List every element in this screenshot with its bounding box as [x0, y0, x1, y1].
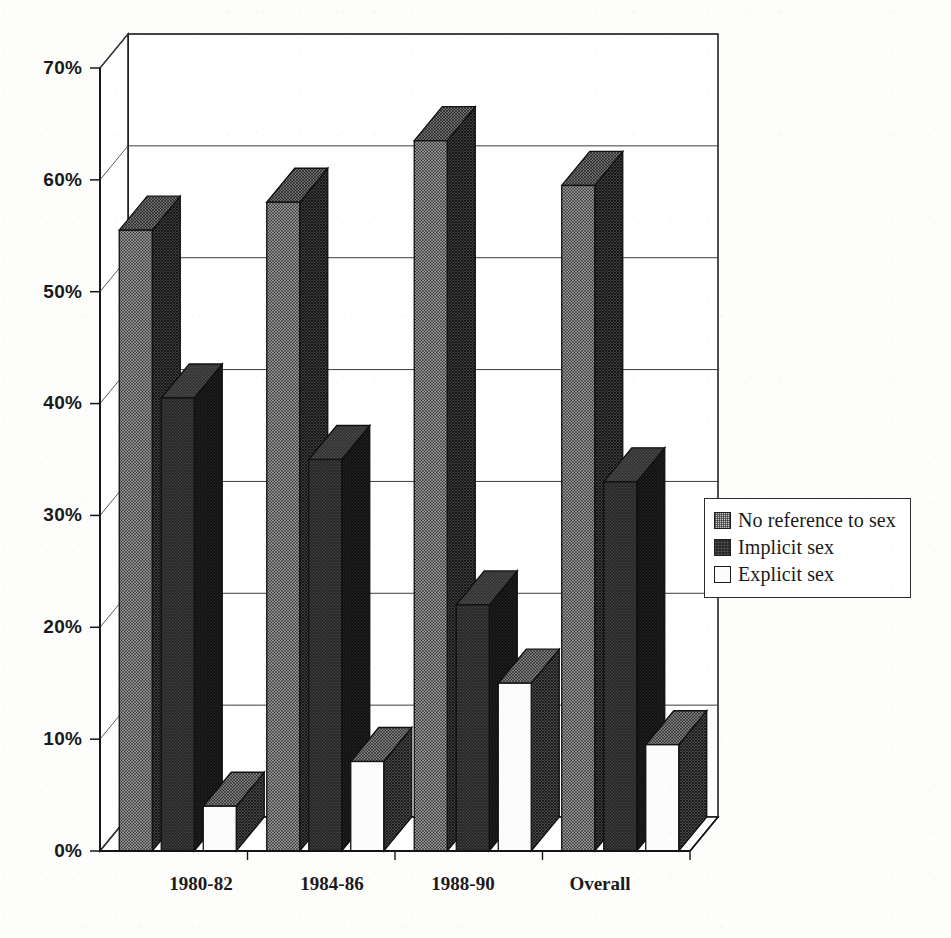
x-tick-1988-90: 1988-90	[431, 873, 494, 895]
y-tick-30: 30%	[12, 504, 82, 526]
legend-label-implicit-sex: Implicit sex	[738, 536, 834, 559]
plot-area	[0, 0, 951, 938]
y-tick-0: 0%	[12, 840, 82, 862]
y-tick-40: 40%	[12, 392, 82, 414]
legend-label-no-reference-to-sex: No reference to sex	[738, 509, 896, 532]
x-tick-1980-82: 1980-82	[169, 873, 232, 895]
y-tick-60: 60%	[12, 169, 82, 191]
y-tick-50: 50%	[12, 281, 82, 303]
bar	[498, 649, 559, 851]
y-tick-10: 10%	[12, 728, 82, 750]
y-axis-tick-labels: 70% 60% 50% 40% 30% 20% 10% 0%	[0, 0, 82, 938]
legend: No reference to sex Implicit sex Explici…	[704, 498, 911, 598]
legend-swatch-explicit-sex	[714, 566, 731, 583]
bar-chart-figure: 70% 60% 50% 40% 30% 20% 10% 0% 1980-82 1…	[0, 0, 951, 938]
legend-item-explicit-sex: Explicit sex	[714, 561, 896, 588]
legend-item-implicit-sex: Implicit sex	[714, 534, 896, 561]
legend-item-no-reference-to-sex: No reference to sex	[714, 507, 896, 534]
x-tick-overall: Overall	[569, 873, 630, 895]
bar	[161, 364, 222, 851]
y-tick-70: 70%	[12, 57, 82, 79]
x-tick-1984-86: 1984-86	[300, 873, 363, 895]
legend-label-explicit-sex: Explicit sex	[738, 563, 834, 586]
y-tick-20: 20%	[12, 616, 82, 638]
legend-swatch-implicit-sex	[714, 539, 731, 556]
legend-swatch-no-reference-to-sex	[714, 512, 731, 529]
